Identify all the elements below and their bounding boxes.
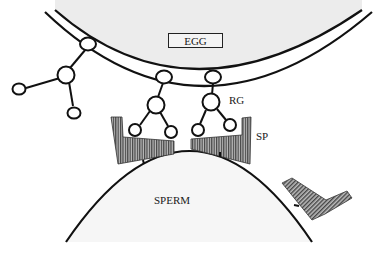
glycan-anchor-node bbox=[156, 71, 172, 84]
glycan-core-node bbox=[203, 94, 220, 111]
receptor-glycan-label: RG bbox=[229, 94, 244, 106]
glycan-middle bbox=[129, 71, 177, 139]
glycan-left bbox=[13, 38, 97, 119]
diagram-canvas: EGG RG SP SPERM bbox=[0, 0, 378, 253]
glycan-anchor-node bbox=[205, 71, 221, 84]
glycan-branch-node bbox=[68, 108, 81, 119]
egg-label: EGG bbox=[168, 33, 223, 48]
glycan-branch-node bbox=[13, 84, 26, 95]
sperm-protein-label: SP bbox=[256, 130, 268, 142]
glycan-core-node bbox=[58, 67, 75, 84]
glycan-anchor-node bbox=[80, 38, 96, 51]
sperm-label: SPERM bbox=[154, 194, 190, 206]
glycan-branch-node bbox=[192, 124, 204, 136]
glycan-branch-node bbox=[224, 119, 236, 131]
glycan-core-node bbox=[148, 97, 165, 114]
glycan-branch-node bbox=[165, 126, 177, 138]
glycan-branch-node bbox=[129, 124, 141, 136]
